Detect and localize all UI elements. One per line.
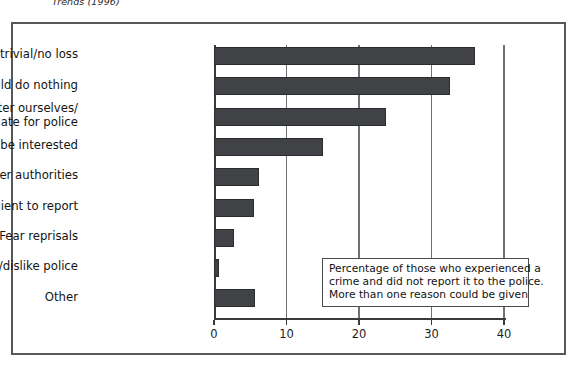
annotation-line-2: crime and did not report it to the polic… — [329, 276, 522, 289]
bar — [214, 108, 386, 126]
x-axis-tick-label: 0 — [210, 327, 217, 341]
x-axis-tick — [503, 320, 505, 325]
category-label: Reported to other authorities — [0, 169, 78, 183]
bar — [214, 289, 255, 307]
category-label: Inconvenient to report — [0, 200, 78, 214]
source-caption: Trends (1996) — [52, 0, 120, 7]
category-label: Fear reprisals — [0, 230, 78, 244]
x-axis-tick-label: 10 — [279, 327, 294, 341]
category-label: Other — [0, 291, 78, 305]
annotation-line-1: Percentage of those who experienced a — [329, 263, 522, 276]
bar — [214, 47, 475, 65]
bar — [214, 199, 254, 217]
category-label: We dealt with matter ourselves/ inapprop… — [0, 102, 78, 129]
category-label: Police would not be interested — [0, 139, 78, 153]
bar — [214, 138, 323, 156]
bar — [214, 259, 219, 277]
x-axis-line — [214, 318, 506, 320]
bar — [214, 168, 259, 186]
annotation-line-3: More than one reason could be given — [329, 289, 522, 302]
x-axis-tick-label: 40 — [497, 327, 512, 341]
x-axis-tick — [358, 320, 360, 325]
annotation-note: Percentage of those who experienced a cr… — [322, 258, 529, 307]
bar — [214, 229, 234, 247]
bar — [214, 77, 450, 95]
x-axis-tick — [286, 320, 288, 325]
x-axis-tick — [213, 320, 215, 325]
x-axis-tick-label: 20 — [352, 327, 367, 341]
x-axis-tick — [431, 320, 433, 325]
figure-root: Trends (1996) 010203040 Too trivial/no l… — [0, 0, 588, 373]
x-axis-tick-label: 30 — [424, 327, 439, 341]
category-label: Fear/dislike police — [0, 260, 78, 274]
category-label: Police could do nothing — [0, 79, 78, 93]
category-label: Too trivial/no loss — [0, 48, 78, 62]
